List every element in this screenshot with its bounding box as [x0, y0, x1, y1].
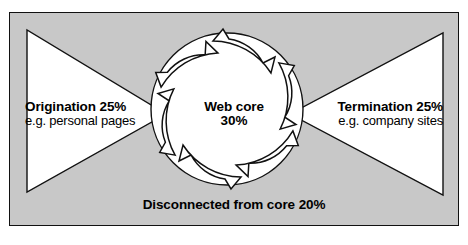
web-core-percent: 30%	[0, 114, 468, 128]
disconnected-label: Disconnected from core 20%	[0, 198, 468, 212]
disconnected-title: Disconnected from core 20%	[0, 198, 468, 212]
diagram-root: Origination 25% e.g. personal pages Term…	[0, 0, 468, 245]
web-core-title: Web core	[0, 100, 468, 114]
web-core-label: Web core 30%	[0, 100, 468, 129]
